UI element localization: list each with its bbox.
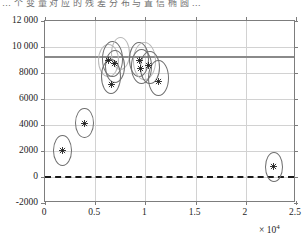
y-axis-tick-label: 2000 [0,146,38,156]
plot-area [44,20,295,202]
y-axis-tick-label: 6000 [0,94,38,104]
x-axis-tick [95,201,96,205]
x-axis-tick [145,17,146,21]
y-axis-tick-label: -2000 [0,198,38,208]
y-axis-tick [294,125,298,126]
y-axis-tick [294,73,298,74]
gridline-horizontal [45,73,294,74]
x-axis-tick [45,17,46,21]
confidence-ellipse [105,50,125,83]
y-axis-tick [294,203,298,204]
figure-caption: … 个 变 量 对 应 的 残 差 分 布 与 置 信 椭 圆 … [2,0,302,9]
gridline-horizontal [45,99,294,100]
x-axis-tick [145,201,146,205]
y-axis-tick-label: 10 000 [0,42,38,52]
y-axis-tick-label: 4000 [0,120,38,130]
gridline-horizontal [45,47,294,48]
x-axis-tick-label: 1.5 [175,208,215,218]
y-axis-tick [41,203,45,204]
x-axis-tick [95,17,96,21]
y-axis-tick [41,73,45,74]
y-axis-tick [294,151,298,152]
y-axis-tick [294,21,298,22]
x-axis-tick-label: 0.5 [74,208,114,218]
y-axis-tick [41,99,45,100]
confidence-ellipse [148,60,169,96]
gridline-vertical [95,21,96,201]
x-axis-tick-label: 1 [124,208,164,218]
y-axis-tick [41,151,45,152]
y-axis-tick [294,177,298,178]
zero-line [45,176,294,178]
y-axis-tick-label: 8000 [0,68,38,78]
gridline-horizontal [45,151,294,152]
x-axis-tick [246,201,247,205]
chart-canvas: … 个 变 量 对 应 的 残 差 分 布 与 置 信 椭 圆 … -20000… [0,0,308,243]
y-axis-tick [41,21,45,22]
x-axis-tick [196,201,197,205]
confidence-ellipse [75,108,94,139]
x-axis-tick [246,17,247,21]
y-axis-tick [41,125,45,126]
x-axis-tick [196,17,197,21]
y-axis-tick [294,47,298,48]
upper-limit-line [45,56,294,58]
gridline-vertical [196,21,197,201]
gridline-vertical [246,21,247,201]
confidence-ellipse [265,152,283,182]
x-axis-tick [45,201,46,205]
x-axis-tick-label: 0 [24,208,64,218]
x-axis-exponent-label: × 104 [259,222,280,235]
x-axis-tick-label: 2.5 [275,208,308,218]
y-axis-tick [41,47,45,48]
y-axis-tick-label: 0 [0,172,38,182]
x-axis-tick-label: 2 [225,208,265,218]
y-axis-tick [294,99,298,100]
confidence-ellipse [53,135,72,166]
y-axis-tick-label: 12 000 [0,16,38,26]
